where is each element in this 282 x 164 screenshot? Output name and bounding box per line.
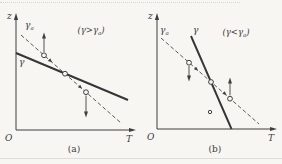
t-axis-label: T xyxy=(268,133,275,143)
origin-label: O xyxy=(5,133,13,143)
parcel-circle-equilibrium xyxy=(63,71,68,76)
parcel-circle-upper xyxy=(42,53,47,58)
diagram-a-unstable: z O T γ γa (γ>γa) (a) xyxy=(0,0,141,164)
panel-a-caption: (a) xyxy=(68,144,80,154)
figure-atmospheric-stability: z O T γ γa (γ>γa) (a) xyxy=(0,0,282,164)
path-arrowhead-icon xyxy=(194,67,200,72)
origin-label: O xyxy=(147,132,155,142)
parcel-circle-small xyxy=(208,110,211,113)
diagram-b-stable: z O T γ γa (γ<γa) (b) xyxy=(141,0,282,164)
up-arrowhead-icon xyxy=(228,78,232,84)
z-axis-arrowhead-icon xyxy=(155,13,159,20)
t-axis-arrowhead-icon xyxy=(129,128,136,132)
down-arrowhead-icon xyxy=(187,76,191,82)
z-axis-label: z xyxy=(6,11,12,21)
parcel-circle-lower xyxy=(84,90,89,95)
t-axis-label: T xyxy=(126,134,133,144)
environment-lapse-line-gamma xyxy=(16,53,128,100)
path-arrowhead-icon xyxy=(78,85,84,90)
stability-condition-label: (γ<γa) xyxy=(222,27,249,38)
panel-a: z O T γ γa (γ>γa) (a) xyxy=(0,0,141,164)
z-axis-label: z xyxy=(147,11,153,21)
t-axis-arrowhead-icon xyxy=(270,127,277,131)
panel-b: z O T γ γa (γ<γa) (b) xyxy=(141,0,282,164)
gamma-label: γ xyxy=(19,57,25,67)
adiabat-line-gamma-a xyxy=(21,35,121,123)
parcel-circle-equilibrium xyxy=(209,80,214,85)
gamma-label: γ xyxy=(193,25,199,35)
z-axis-arrowhead-icon xyxy=(14,13,18,20)
panel-b-caption: (b) xyxy=(209,144,222,154)
up-arrowhead-icon xyxy=(42,33,46,39)
down-arrowhead-icon xyxy=(84,112,88,118)
stability-condition-label: (γ>γa) xyxy=(77,25,104,36)
parcel-circle-upper xyxy=(187,60,192,65)
gamma-a-label: γa xyxy=(160,25,169,36)
parcel-circle-lower xyxy=(228,96,233,101)
path-arrowhead-icon xyxy=(222,91,228,96)
gamma-a-label: γa xyxy=(25,20,34,31)
